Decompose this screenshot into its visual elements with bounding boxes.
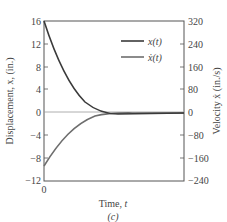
tick-right-320: 320 — [188, 16, 203, 27]
x-axis-label-var: t — [124, 198, 127, 209]
figure-caption: (c) — [107, 211, 119, 222]
tick-left-16: 16 — [31, 16, 41, 27]
series-velocity-line — [44, 113, 184, 166]
tick-left-4: 4 — [36, 84, 41, 95]
tick-right-160: 160 — [188, 62, 203, 73]
x-axis-label-text: Time, — [99, 198, 125, 209]
x-axis-label: Time, t — [99, 198, 128, 209]
y-axis-left-label: Displacement, x, (in.) — [4, 58, 16, 145]
tick-left-8: 8 — [36, 62, 41, 73]
right-axis-ticks — [180, 44, 184, 158]
tick-left-neg12: −12 — [25, 175, 41, 186]
tick-right-240: 240 — [188, 39, 203, 50]
tick-left-neg8: −8 — [30, 153, 41, 164]
tick-right-0: 0 — [188, 107, 193, 118]
right-axis-tick-labels: 320 240 160 80 0 −80 −160 −240 — [188, 16, 209, 186]
tick-left-0: 0 — [36, 107, 41, 118]
legend-label-xdot: ẋ(t) — [147, 52, 163, 64]
left-axis-ticks — [44, 44, 48, 158]
tick-left-12: 12 — [31, 39, 41, 50]
series-displacement-line — [44, 21, 184, 114]
y-axis-right-label: Velocity ẋ (in./s) — [211, 68, 223, 135]
tick-right-neg160: −160 — [188, 153, 209, 164]
legend: x(t) ẋ(t) — [121, 36, 163, 64]
tick-right-80: 80 — [188, 84, 198, 95]
tick-right-neg240: −240 — [188, 175, 209, 186]
left-axis-tick-labels: 16 12 8 4 0 −4 −8 −12 — [25, 16, 41, 186]
tick-left-neg4: −4 — [30, 130, 41, 141]
x-tick-0: 0 — [42, 184, 47, 195]
chart: 16 12 8 4 0 −4 −8 −12 320 240 160 80 0 −… — [0, 0, 227, 222]
plot-frame — [44, 21, 184, 181]
tick-right-neg80: −80 — [188, 130, 204, 141]
legend-label-x: x(t) — [147, 36, 163, 48]
